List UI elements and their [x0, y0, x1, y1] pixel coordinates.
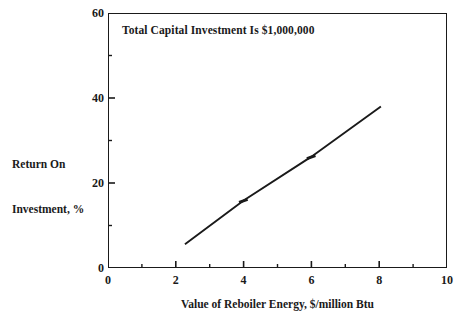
y-tick-label-60: 60	[76, 7, 104, 19]
x-tick-label-10: 10	[432, 274, 462, 286]
x-axis-title: Value of Reboiler Energy, $/million Btu	[108, 298, 447, 310]
y-axis-title-line-1: Return On	[12, 157, 84, 172]
x-axis-minor-ticks	[142, 264, 413, 268]
y-axis-minor-ticks	[108, 56, 112, 226]
y-tick-label-40: 40	[76, 92, 104, 104]
chart-figure: Total Capital Investment Is $1,000,000 0…	[0, 0, 467, 327]
x-axis-tick-labels: 0246810	[0, 274, 467, 290]
x-tick-label-8: 8	[364, 274, 394, 286]
x-tick-label-4: 4	[229, 274, 259, 286]
y-axis-title: Return On Investment, %	[12, 128, 84, 246]
x-tick-label-0: 0	[93, 274, 123, 286]
data-series-line	[185, 107, 381, 245]
y-tick-label-0: 0	[76, 262, 104, 274]
x-tick-label-2: 2	[161, 274, 191, 286]
x-tick-label-6: 6	[296, 274, 326, 286]
y-axis-title-line-2: Investment, %	[12, 202, 84, 217]
